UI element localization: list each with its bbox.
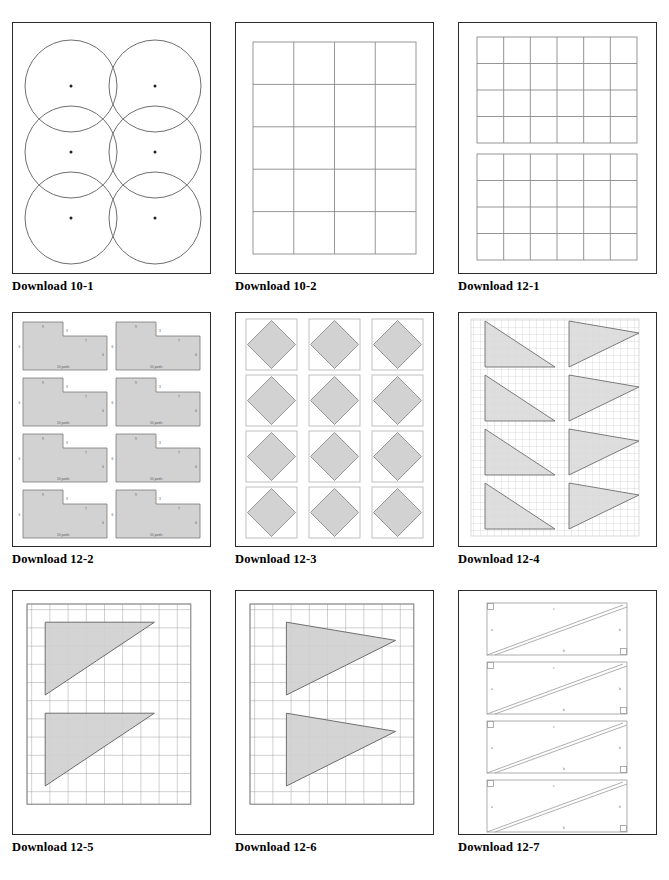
panel-download-12-7[interactable]: c a b b Download [446, 590, 669, 880]
panel-download-12-1[interactable]: Download 12-1 [446, 22, 669, 312]
panel-frame [12, 590, 211, 835]
panel-caption: Download 10-1 [12, 279, 211, 294]
panel-download-10-2[interactable]: Download 10-2 [223, 22, 446, 312]
panel-caption: Download 12-4 [458, 552, 657, 567]
triangles-coarse-grid-figure [13, 591, 210, 834]
triangles-fine-grid-figure [459, 313, 656, 546]
panel-frame [458, 312, 657, 547]
rectangles-with-diagonals-figure: c a b b [459, 591, 656, 834]
panel-frame [458, 22, 657, 274]
double-rectangle-grid-figure [459, 23, 656, 273]
panel-download-12-4[interactable]: Download 12-4 [446, 312, 669, 590]
panel-grid: Download 10-1 Downlo [0, 0, 669, 880]
panel-download-10-1[interactable]: Download 10-1 [0, 22, 223, 312]
circles-figure [13, 23, 210, 273]
worksheet-sheet: Download 10-1 Downlo [0, 0, 669, 880]
panel-caption: Download 12-5 [12, 840, 211, 855]
panel-frame [235, 590, 434, 835]
panel-frame: 9 3 7 4 6 10 yards [12, 312, 211, 547]
panel-download-12-6[interactable]: Download 12-6 [223, 590, 446, 880]
panel-caption: Download 12-6 [235, 840, 434, 855]
panel-caption: Download 12-7 [458, 840, 657, 855]
panel-frame [235, 22, 434, 274]
panel-caption: Download 12-2 [12, 552, 211, 567]
panel-frame: c a b b [458, 590, 657, 835]
triangles-pointing-right-figure [236, 591, 433, 834]
panel-frame [235, 312, 434, 547]
diamonds-figure [236, 313, 433, 546]
panel-caption: Download 10-2 [235, 279, 434, 294]
l-shapes-figure: 9 3 7 4 6 10 yards [13, 313, 210, 546]
rectangle-grid-figure [236, 23, 433, 273]
panel-caption: Download 12-3 [235, 552, 434, 567]
panel-frame [12, 22, 211, 274]
panel-download-12-5[interactable]: Download 12-5 [0, 590, 223, 880]
panel-download-12-2[interactable]: 9 3 7 4 6 10 yards [0, 312, 223, 590]
panel-caption: Download 12-1 [458, 279, 657, 294]
panel-download-12-3[interactable]: Download 12-3 [223, 312, 446, 590]
